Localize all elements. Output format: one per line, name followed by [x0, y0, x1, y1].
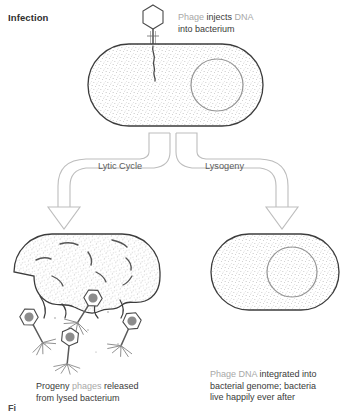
caption-infection-word-phage: Phage: [178, 12, 207, 22]
caption-lysogeny-line2: bacterial genome; bacteria: [210, 381, 317, 393]
caption-lysogeny-word-integrated: integrated into: [260, 369, 317, 379]
section-label-infection: Infection: [8, 12, 48, 24]
lysogenic-bacterium-icon: [211, 234, 339, 310]
caption-lysogeny-word-phagedna: Phage DNA: [210, 369, 260, 379]
caption-lytic-word-progeny: Progeny: [36, 381, 72, 391]
branch-arrow-left-icon: [48, 133, 170, 229]
caption-lysogeny: Phage DNA integrated into bacterial geno…: [210, 366, 317, 404]
caption-infection: Phage injects DNA into bacterium: [178, 9, 254, 35]
lysed-bacterium-icon: [14, 234, 160, 318]
pathway-label-lytic: Lytic Cycle: [98, 161, 142, 173]
bacterium-icon: [88, 44, 263, 126]
caption-lytic-word-released: released: [104, 381, 139, 391]
caption-lytic: Progeny phages released from lysed bacte…: [36, 378, 139, 404]
pathway-label-lysogeny: Lysogeny: [205, 161, 244, 173]
caption-infection-word-dna: DNA: [235, 12, 254, 22]
branch-arrow-right-icon: [176, 133, 298, 229]
caption-lytic-word-phages: phages: [72, 381, 104, 391]
caption-infection-word-injects: injects: [207, 12, 235, 22]
caption-infection-line2: into bacterium: [178, 24, 254, 36]
figure-caption-partial: Fi: [8, 403, 16, 415]
caption-lysogeny-line3: live happily ever after: [210, 392, 317, 404]
caption-lytic-line2: from lysed bacterium: [36, 393, 139, 405]
